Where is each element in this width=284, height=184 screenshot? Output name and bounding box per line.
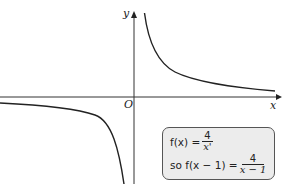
formula-box: f(x) = 4 x' so f(x − 1) = 4 x − 1 — [162, 127, 275, 180]
x-axis-label: x — [270, 99, 276, 112]
x-axis-arrow-icon — [276, 94, 282, 100]
y-axis-arrow-icon — [131, 11, 137, 18]
formula-line1-prefix: f(x) = — [170, 136, 200, 148]
fraction-denominator: x' — [203, 142, 211, 152]
formula-line2-prefix: so f(x − 1) = — [170, 159, 238, 171]
formula-line2-fraction: 4 x − 1 — [240, 154, 267, 175]
formula-line1-fraction: 4 x' — [202, 131, 212, 152]
curve-right-branch — [145, 13, 276, 91]
y-axis-label: y — [123, 7, 129, 20]
origin-label: O — [124, 98, 133, 111]
curve-left-branch — [0, 103, 124, 184]
fraction-denominator: x − 1 — [240, 165, 267, 175]
